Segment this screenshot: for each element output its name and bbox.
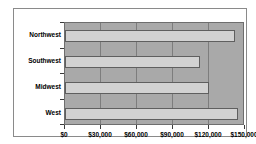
- y-axis-tick: [60, 22, 64, 23]
- y-axis-tick: [60, 48, 64, 49]
- category-label: Southwest: [27, 57, 61, 65]
- bar: [65, 56, 200, 68]
- x-axis-tick: [172, 125, 173, 129]
- category-label: West: [27, 109, 61, 117]
- x-axis-tick-label: $150,000: [219, 131, 256, 139]
- category-label: Northwest: [27, 31, 61, 39]
- x-axis-tick: [136, 125, 137, 129]
- plot-area: [64, 22, 244, 125]
- x-axis-tick: [64, 125, 65, 129]
- y-axis-tick: [60, 73, 64, 74]
- bar: [65, 30, 235, 42]
- bar: [65, 82, 209, 94]
- x-axis-tick: [208, 125, 209, 129]
- y-axis-tick: [60, 124, 64, 125]
- category-label: Midwest: [27, 83, 61, 91]
- bar: [65, 108, 238, 120]
- chart-frame: Northwest Southwest Midwest West $0 $30,…: [13, 8, 247, 137]
- x-axis-tick: [244, 125, 245, 129]
- y-axis-tick: [60, 99, 64, 100]
- x-axis-tick: [100, 125, 101, 129]
- bar-chart-image: Northwest Southwest Midwest West $0 $30,…: [0, 0, 256, 144]
